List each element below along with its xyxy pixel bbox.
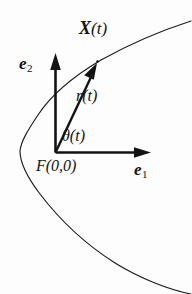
basis-vector-label-e2: e2 xyxy=(19,55,33,74)
point-label-symbol: X xyxy=(79,18,91,38)
e2-axis-arrowhead xyxy=(50,53,61,70)
angle-label: θ(t) xyxy=(62,128,85,144)
diagram-canvas xyxy=(0,0,192,294)
radius-vector-arrowhead xyxy=(84,63,97,80)
basis-2-index: 2 xyxy=(27,62,33,74)
conic-polar-diagram: X(t) e2 r(t) θ(t) F(0,0) e1 xyxy=(0,0,192,294)
basis-1-symbol: e xyxy=(134,160,142,179)
point-on-curve-marker xyxy=(96,60,98,62)
basis-2-symbol: e xyxy=(19,54,27,73)
basis-vector-label-e1: e1 xyxy=(134,161,148,180)
e1-axis-arrowhead xyxy=(134,147,151,158)
radius-label: r(t) xyxy=(76,88,97,104)
basis-1-index: 1 xyxy=(142,168,148,180)
point-label-X: X(t) xyxy=(79,19,107,37)
point-label-arg: (t) xyxy=(91,19,107,38)
focus-label: F(0,0) xyxy=(36,158,76,174)
